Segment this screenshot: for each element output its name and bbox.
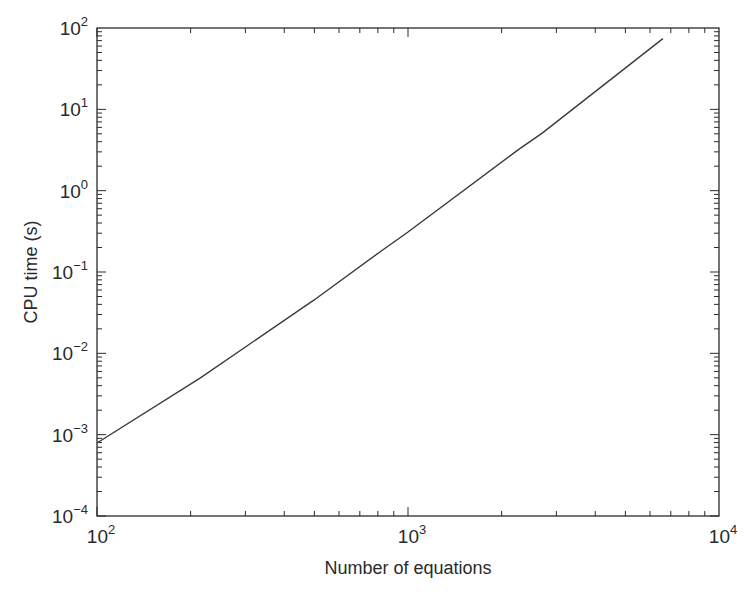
cpu-time-chart: 10−410−310−210−1100101102 102103104 Numb…: [0, 0, 748, 600]
data-line: [97, 39, 663, 443]
y-tick-label: 100: [60, 177, 88, 202]
major-ticks: [97, 28, 719, 516]
y-tick-label: 10−1: [52, 258, 88, 283]
x-tick-label: 104: [709, 522, 737, 547]
minor-ticks: [97, 28, 719, 516]
y-axis-label: CPU time (s): [21, 221, 41, 324]
x-tick-label: 103: [398, 522, 426, 547]
x-tick-labels: 102103104: [87, 522, 737, 547]
plot-frame: [97, 28, 719, 516]
y-tick-labels: 10−410−310−210−1100101102: [52, 14, 88, 527]
x-axis-label: Number of equations: [324, 558, 491, 578]
y-tick-label: 10−4: [52, 502, 88, 527]
y-tick-label: 101: [60, 95, 88, 120]
y-tick-label: 102: [60, 14, 88, 39]
y-tick-label: 10−3: [52, 421, 88, 446]
x-tick-label: 102: [87, 522, 115, 547]
y-tick-label: 10−2: [52, 339, 88, 364]
